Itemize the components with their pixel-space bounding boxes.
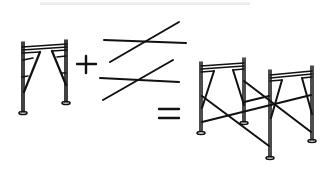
scaffold-assembly-diagram <box>0 0 329 172</box>
assembled-scaffold <box>197 58 316 160</box>
cross-braces <box>100 22 186 100</box>
plus-sign <box>77 56 96 73</box>
single-frame <box>19 40 70 115</box>
equals-sign <box>159 109 179 118</box>
